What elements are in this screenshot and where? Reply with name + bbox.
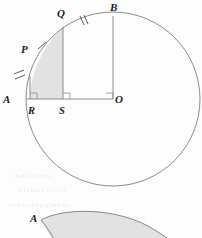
tick-marks-arc-Q-B [80, 15, 88, 25]
label-A: A [2, 93, 10, 105]
geometry-figure: t h e r a d i u s o f t h e c i r c l e … [0, 0, 202, 238]
crescent-diagram: A [29, 211, 182, 238]
label-R: R [27, 105, 35, 116]
label-P: P [21, 43, 28, 55]
label-O: O [115, 93, 123, 105]
svg-text:o f t h e c i r: o f t h e c i r c l e [18, 186, 65, 194]
label-B: B [109, 1, 117, 13]
shaded-region-RQS [30, 27, 63, 99]
label-Q: Q [57, 7, 65, 19]
figure-page: t h e r a d i u s o f t h e c i r c l e … [0, 0, 202, 238]
right-angle-mark-S [63, 93, 70, 99]
right-angle-mark-O [106, 93, 113, 99]
tick-marks-arc-A-P [14, 70, 25, 79]
label-S: S [59, 105, 65, 116]
circle-diagram: B Q P A R S O [2, 1, 200, 186]
svg-text:a r e a o f s e: a r e a o f s e g m e n t [8, 201, 70, 209]
label-A-bottom: A [29, 212, 37, 224]
svg-text:t h e r a d i u s: t h e r a d i u s [12, 172, 52, 180]
